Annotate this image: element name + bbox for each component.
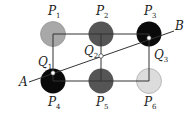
label-p6: P6 [143, 95, 157, 111]
diagram-canvas: P1 P2 P3 P4 P5 P6 Q1 Q2 Q3 A B [0, 0, 191, 113]
label-q1: Q1 [38, 55, 52, 71]
label-q3: Q3 [154, 48, 168, 64]
label-q2: Q2 [84, 44, 98, 60]
label-p5: P5 [95, 95, 109, 111]
q1-marker [51, 71, 55, 75]
label-p4: P4 [47, 95, 61, 111]
label-p2: P2 [95, 4, 109, 20]
q2-marker [99, 54, 103, 58]
label-b: B [174, 19, 184, 33]
label-p1: P1 [47, 4, 61, 20]
label-p3: P3 [143, 4, 157, 20]
label-a: A [18, 75, 28, 89]
q3-marker [147, 36, 151, 40]
